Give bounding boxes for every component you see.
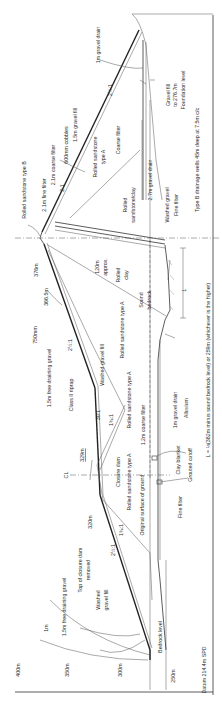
gravel-drain-1m-low-label: 1m gravel drain xyxy=(172,392,178,429)
rolled-sandstone-a-low-label: Rolled sandstone type A xyxy=(126,371,132,429)
berm-elevation: 366.5m xyxy=(43,288,49,306)
inclined-filter-2 xyxy=(55,226,165,244)
top-closure-removed-2: removed xyxy=(85,560,91,581)
closure-top-elevation: 329m xyxy=(79,448,85,462)
rolled-clay-1: Rolled xyxy=(115,267,121,282)
washed-gravel-fill-low-1: Washed xyxy=(95,590,101,609)
riprap-750-label: 750mm xyxy=(32,326,38,344)
fine-filter-21-label: 2.1m fine filter xyxy=(41,178,47,212)
l-formula-label: L = ⅓(382m minus sound bedrock level) or… xyxy=(205,283,211,457)
clay-blanket-label: Clay blanket xyxy=(175,445,181,475)
inclined-filter-3 xyxy=(55,230,165,248)
washed-gravel-fill-low-2: gravel fill xyxy=(103,590,109,611)
datum-label: Datum 214.4m SPD xyxy=(201,646,207,693)
bedrock-level-label: Bedrock level xyxy=(157,621,163,653)
rolled-sandstone-clay-1: Rolled xyxy=(122,197,128,212)
top-closure-removed-1: Top of closure dam xyxy=(77,547,83,592)
slope-downstream-upper: 2:1 xyxy=(59,184,65,191)
free-draining-low-label: 1.5m free draining gravel xyxy=(61,578,67,637)
closure-dam-upstream xyxy=(90,460,92,480)
rolled-sandstone-a-top-2: type A xyxy=(100,149,106,164)
rolled-sandstone-a-mid-label: Rolled sandstone type A xyxy=(119,301,125,359)
slope-closure-ds: 1¾:1 xyxy=(108,414,114,426)
centerline-label: CL xyxy=(63,472,69,479)
approx-120-2: approx. xyxy=(102,258,108,276)
coarse-filter-21-label: 2.1m coarse filter xyxy=(50,144,56,185)
free-draining-top-label: 1.5m free draining gravel xyxy=(46,349,52,408)
rolled-sandstone-b-label: Rolled sandstone type B xyxy=(21,161,27,219)
fine-filter-label: Fine filter xyxy=(173,194,179,216)
l-label: L xyxy=(181,288,187,291)
cobbles-label: 600mm cobbles xyxy=(63,126,69,164)
coarse-filter-12-label: 1.2m coarse filter xyxy=(140,404,146,445)
grouted-cutoff-label: Grouted cutoff xyxy=(187,448,193,482)
labels: Foundation level Gravel fill to 276.7m T… xyxy=(15,27,211,694)
coarse-filter-label: Coarse filter xyxy=(115,125,121,154)
gravel-fill-276-label-1: Gravel fill xyxy=(165,84,171,106)
closure-upstream-elevation: 320m xyxy=(87,515,93,529)
original-surface-label: Original surface of ground xyxy=(139,474,145,535)
washed-gravel-label: Washed gravel xyxy=(164,187,170,222)
fine-filter-low-label: Fine filter xyxy=(177,496,183,518)
inclined-filter-1 xyxy=(55,222,165,240)
elev-400: 400m xyxy=(15,663,21,677)
gravel-fill-276-label-2: to 276.7m xyxy=(172,83,178,107)
elev-250: 250m xyxy=(170,669,176,683)
slope-upstream-lower: 2½:1 xyxy=(110,544,116,556)
gravel-drain-27-label: 2.7m gravel drain xyxy=(147,159,153,200)
grouted-cutoff-mark-1 xyxy=(152,456,157,460)
rolled-sandstone-a-top-1: Rolled sandstone xyxy=(92,136,98,177)
gravel-drain-1m-top-label: 1m gravel drain xyxy=(95,27,101,64)
elev-300: 300m xyxy=(117,663,123,677)
elev-350: 350m xyxy=(64,663,70,677)
sound-bedrock-1: Sound xyxy=(138,292,144,307)
foundation-level-label: Foundation level xyxy=(180,71,186,110)
alluvium-label: Alluvium xyxy=(183,397,189,418)
rolled-sandstone-closure-label: Rolled sandstone type A xyxy=(126,453,132,511)
rolled-sandstone-clay-2: sandstone/clay xyxy=(130,187,136,223)
slope-downstream-lower: 2½:1 xyxy=(107,84,113,96)
closure-dam-label: Closure dam xyxy=(115,456,121,487)
approx-120-1: 120m xyxy=(94,260,100,274)
crest-elevation: 376m xyxy=(33,263,39,277)
dam-cross-section-diagram: Foundation level Gravel fill to 276.7m T… xyxy=(0,0,222,705)
gravel-fill-15-label: 1.5m gravel fill xyxy=(72,108,78,142)
slope-upstream-upper: 2½:1 xyxy=(67,339,73,351)
slope-berm: 30:1 xyxy=(95,410,101,420)
one-m-label: 1m xyxy=(43,624,49,632)
sound-bedrock-2: bedrock xyxy=(146,290,152,309)
core-boundary-upstream-2 xyxy=(48,250,125,470)
class-ii-riprap-label: Class II riprap xyxy=(68,379,74,412)
washed-gravel-fill-mid-label: Washed gravel fill xyxy=(99,344,105,386)
rolled-clay-2: clay xyxy=(123,270,129,280)
type-b-wells-label: Type B drainage wells 45m deep at 7.5m c… xyxy=(194,108,200,213)
slope-closure-us: 1¾:1 xyxy=(118,524,124,536)
